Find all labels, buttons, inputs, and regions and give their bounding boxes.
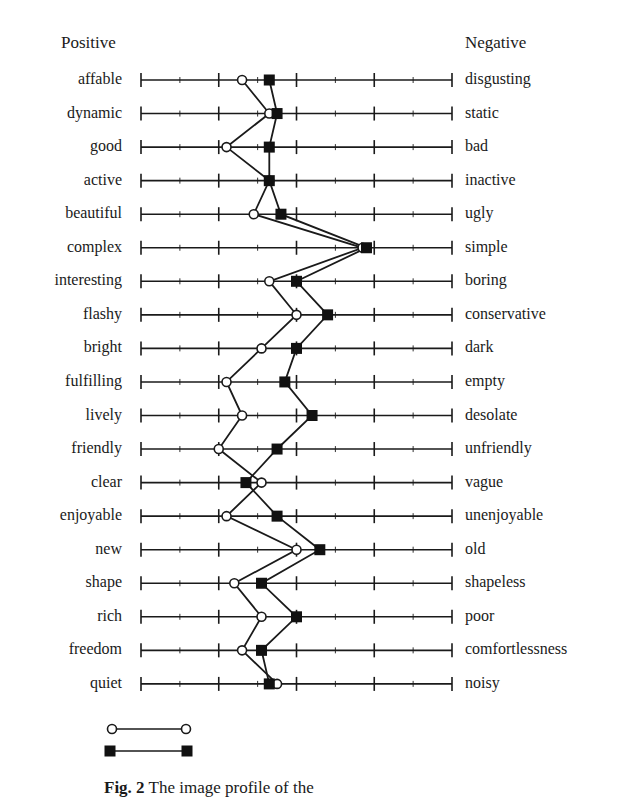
open-circle-marker [292,310,301,319]
figure-caption: Fig. 2 The image profile of the [104,778,314,798]
filled-square-marker [272,511,283,522]
caption-text: The image profile of the [145,778,314,797]
legend-filled-square-icon [105,746,116,757]
filled-square-marker [264,75,275,86]
legend-open-circle-icon [108,725,117,734]
filled-square-marker [264,175,275,186]
open-circle-marker [265,277,274,286]
open-circle-marker [249,210,258,219]
legend-open-circle-icon [182,725,191,734]
filled-square-marker [291,276,302,287]
open-circle-marker [222,377,231,386]
filled-square-marker [291,611,302,622]
open-circle-marker [238,76,247,85]
open-circle-marker [222,512,231,521]
filled-square-marker [307,410,318,421]
filled-square-marker [275,209,286,220]
filled-square-marker [291,343,302,354]
filled-square-marker [264,678,275,689]
filled-square-marker [314,544,325,555]
open-circle-marker [222,143,231,152]
open-circle-marker [257,612,266,621]
filled-square-marker [256,645,267,656]
filled-square-marker [272,108,283,119]
open-circle-marker [292,545,301,554]
filled-square-marker [240,477,251,488]
figure-number: Fig. 2 [104,778,145,797]
open-circle-marker [230,579,239,588]
open-circle-marker [214,445,223,454]
filled-square-marker [256,578,267,589]
open-circle-marker [238,646,247,655]
open-circle-marker [238,411,247,420]
filled-square-marker [279,376,290,387]
filled-square-marker [264,142,275,153]
legend-filled-square-icon [182,746,193,757]
filled-square-marker [272,444,283,455]
open-circle-marker [257,344,266,353]
filled-square-marker [322,309,333,320]
open-circle-marker [257,478,266,487]
filled-square-marker [361,242,372,253]
